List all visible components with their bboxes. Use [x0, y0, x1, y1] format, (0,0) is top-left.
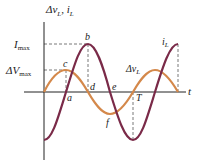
current-curve-label: iL: [162, 36, 169, 49]
vmax-label: ΔVmax: [5, 64, 32, 78]
point-c-label: c: [63, 58, 68, 69]
imax-label: Imax: [13, 38, 30, 52]
point-T-label: T: [136, 92, 143, 103]
point-e-label: e: [112, 81, 117, 92]
y-axis-label: ΔvL, iL: [45, 3, 74, 18]
inductor-phase-diagram: ΔvL, iL t Imax ΔVmax b c a d e f T iL Δv…: [0, 0, 197, 160]
x-axis-label: t: [188, 85, 192, 97]
point-f-label: f: [106, 117, 110, 128]
voltage-curve-label: ΔvL: [125, 63, 140, 76]
point-d-label: d: [90, 81, 96, 92]
point-b-label: b: [85, 31, 90, 42]
point-a-label: a: [67, 92, 72, 103]
